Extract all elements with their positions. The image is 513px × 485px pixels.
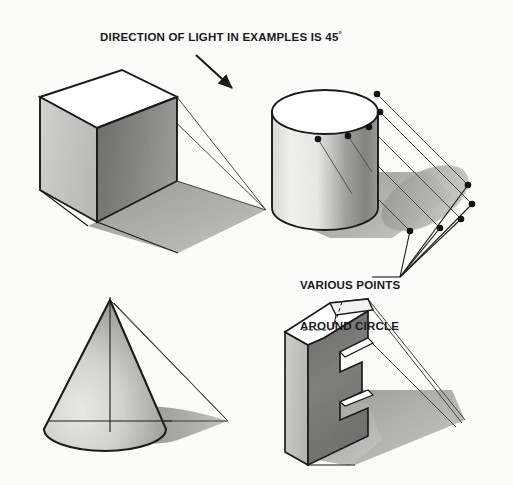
rim-point (366, 124, 373, 131)
annotation-line-2: AROUND CIRCLE (300, 320, 400, 334)
cylinder-top-ellipse (272, 90, 378, 134)
figure-page: DIRECTION OF LIGHT IN EXAMPLES IS 45° VA… (0, 0, 513, 485)
degree-symbol: ° (339, 30, 342, 39)
rim-point (315, 136, 322, 143)
annotation-line-1: VARIOUS POINTS (300, 279, 400, 293)
light-direction-title: DIRECTION OF LIGHT IN EXAMPLES IS 45° (100, 30, 342, 43)
various-points-annotation: VARIOUS POINTS AROUND CIRCLE (300, 252, 400, 360)
shadow-construction-illustration (0, 0, 513, 485)
rim-point (374, 91, 381, 98)
light-direction-title-text: DIRECTION OF LIGHT IN EXAMPLES IS 45 (100, 31, 339, 43)
rim-point (345, 133, 352, 140)
rim-point (377, 109, 384, 116)
